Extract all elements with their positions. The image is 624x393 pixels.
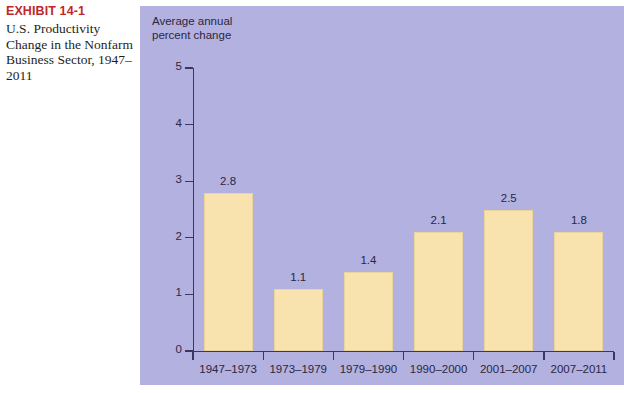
chart-panel: Average annual percent change 0123452.81… [140,6,624,385]
y-axis-tick [185,124,193,125]
y-axis-tick-label: 1 [162,286,182,298]
bar [484,210,533,352]
bar-value-label: 2.5 [484,192,534,204]
x-axis-category-label: 1947–1973 [193,363,263,375]
x-axis-tick [192,352,193,360]
bar [414,232,463,351]
bar [204,193,253,351]
bar [554,232,603,351]
x-axis-category-label: 2007–2011 [544,363,614,375]
y-axis-line [193,68,194,352]
plot-area: 0123452.81947–19731.11973–19791.41979–19… [140,6,624,385]
x-axis-tick [263,352,264,360]
bar-value-label: 2.1 [414,214,464,226]
x-axis-tick [333,352,334,360]
y-axis-tick-label: 5 [162,60,182,72]
bar-value-label: 1.8 [554,214,604,226]
x-axis-category-label: 1990–2000 [404,363,474,375]
exhibit-caption-block: EXHIBIT 14-1 U.S. Productivity Change in… [6,4,134,83]
bar-value-label: 1.1 [273,271,323,283]
x-axis-tick [473,352,474,360]
x-axis-tick [543,352,544,360]
x-axis-category-label: 1979–1990 [333,363,403,375]
bar-value-label: 2.8 [203,175,253,187]
y-axis-tick [185,181,193,182]
y-axis-tick [185,237,193,238]
bar [274,289,323,351]
y-axis-tick-label: 2 [162,230,182,242]
exhibit-caption-text: U.S. Productivity Change in the Nonfarm … [6,21,134,83]
y-axis-tick [185,67,193,68]
bar [344,272,393,351]
y-axis-tick [185,294,193,295]
x-axis-tick [403,352,404,360]
x-axis-category-label: 1973–1979 [263,363,333,375]
x-axis-tick [613,352,614,360]
x-axis-category-label: 2001–2007 [474,363,544,375]
exhibit-number: EXHIBIT 14-1 [6,4,134,18]
y-axis-tick-label: 0 [162,343,182,355]
y-axis-tick-label: 3 [162,173,182,185]
y-axis-tick-label: 4 [162,117,182,129]
bar-value-label: 1.4 [343,254,393,266]
